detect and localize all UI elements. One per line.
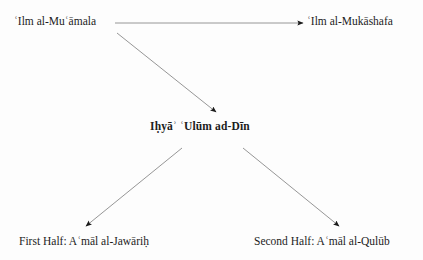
edge-ihya-to-second-half	[243, 148, 339, 226]
node-second-half-amal-al-qulub: Second Half: Aʿmāl al-Qulūb	[254, 236, 390, 248]
diagram-canvas: ʿIlm al-Muʿāmala ʿIlm al-Mukāshafa Iḥyāʾ…	[0, 0, 423, 260]
edge-ihya-to-first-half	[86, 148, 182, 226]
node-ilm-al-muamala: ʿIlm al-Muʿāmala	[14, 16, 96, 28]
node-ihya-ulum-ad-din: Iḥyāʾ ʿUlūm ad-Dīn	[150, 121, 250, 133]
node-ilm-al-mukashafa: ʿIlm al-Mukāshafa	[307, 16, 393, 28]
node-first-half-amal-al-jawarih: First Half: Aʿmāl al-Jawāriḥ	[19, 236, 149, 248]
edge-muamala-to-ihya	[117, 33, 216, 112]
